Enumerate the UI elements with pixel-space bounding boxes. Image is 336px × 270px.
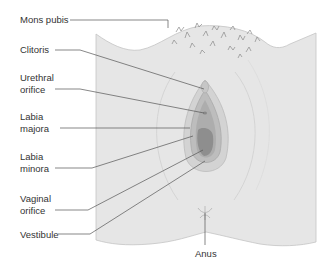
leader-mons-pubis — [70, 20, 168, 28]
label-vaginal-orifice-line1: Vaginal — [20, 193, 51, 205]
label-labia-majora-line1: Labia — [20, 111, 43, 123]
label-vaginal-orifice-line2: orifice — [20, 205, 45, 217]
label-urethral-orifice-line2: orifice — [20, 84, 45, 96]
label-clitoris: Clitoris — [20, 44, 49, 56]
label-anus: Anus — [195, 248, 217, 260]
label-labia-majora-line2: majora — [20, 123, 49, 135]
label-mons-pubis: Mons pubis — [20, 14, 69, 26]
clitoris-shape — [202, 81, 209, 93]
label-urethral-orifice-line1: Urethral — [20, 72, 54, 84]
label-vestibule: Vestibule — [20, 229, 59, 241]
label-labia-minora-line2: minora — [20, 163, 49, 175]
label-labia-minora-line1: Labia — [20, 151, 43, 163]
